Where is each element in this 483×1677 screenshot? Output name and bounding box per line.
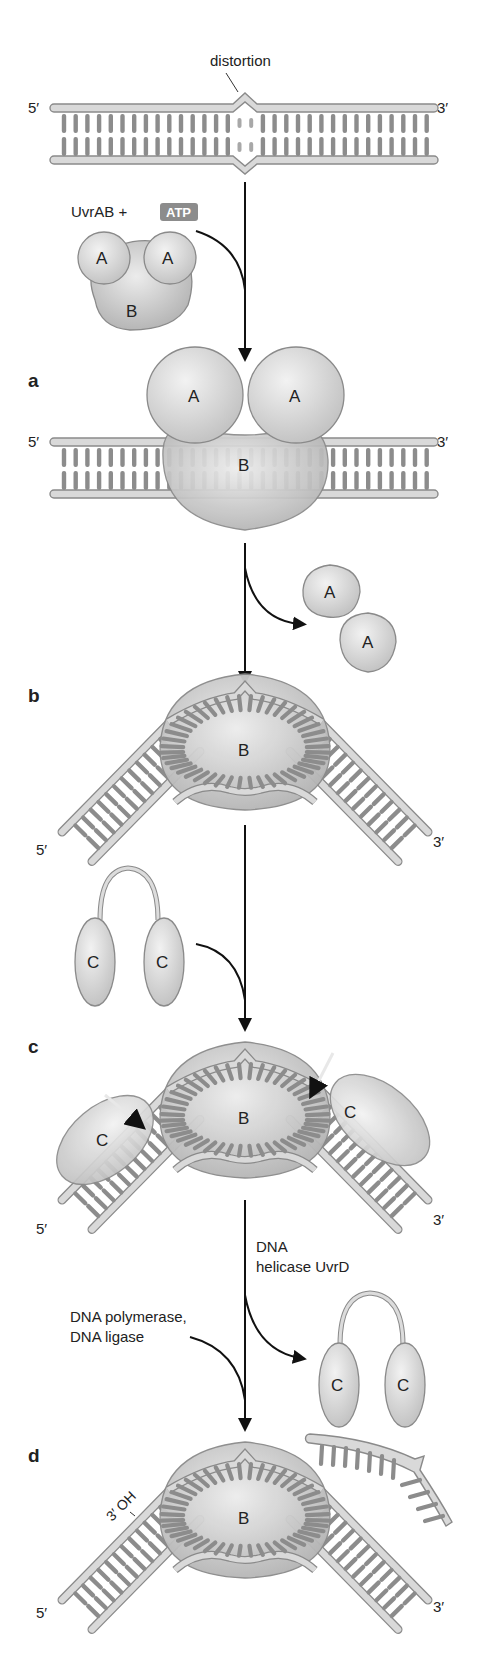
uvrab-complex: A A B (78, 232, 196, 330)
panel-d-end-3: 3′ (433, 1598, 444, 1615)
base-pairs (62, 114, 429, 156)
polymerase-label-2: DNA ligase (70, 1328, 144, 1345)
protein-B-label: B (238, 1109, 249, 1128)
uvrC-linker (100, 868, 158, 920)
released-A-1-label: A (324, 583, 336, 602)
join-arrow-polymerase (190, 1337, 245, 1400)
label-A-2: A (162, 249, 174, 268)
panel-d-end-5: 5′ (36, 1604, 47, 1621)
release-arrow-C (245, 1295, 300, 1358)
helicase-label-2: helicase UvrD (256, 1258, 350, 1275)
release-arrow-A (245, 568, 300, 624)
oh-3-label: 3′ OH (103, 1488, 139, 1524)
protein-B-label: B (238, 1509, 249, 1528)
uvrC-1-label: C (87, 953, 99, 972)
distortion-pointer (226, 73, 238, 92)
label-B: B (126, 302, 137, 321)
top-strand (50, 93, 438, 112)
polymerase-label-1: DNA polymerase, (70, 1308, 187, 1325)
released-uvrC-2-label: C (397, 1376, 409, 1395)
panel-c-end-5: 5′ (36, 1220, 47, 1237)
panel-c-C-right-label: C (344, 1103, 356, 1122)
panel-a-label-A-1: A (188, 387, 200, 406)
uvrC-2-label: C (156, 953, 168, 972)
panel-a-end-3: 3′ (437, 433, 448, 450)
dna-duplex-with-distortion: distortion 5′ 3′ (28, 52, 448, 174)
label-A-1: A (96, 249, 108, 268)
join-arrow-1 (196, 231, 245, 290)
top-end-5: 5′ (28, 99, 39, 116)
panel-a-label-A-2: A (289, 387, 301, 406)
panel-d: d5′3′3′ OHB (28, 1434, 452, 1629)
top-end-3: 3′ (437, 99, 448, 116)
released-uvrC-1-label: C (331, 1376, 343, 1395)
released-A-proteins: A A (303, 565, 396, 672)
uvrab-label: UvrAB + (71, 203, 128, 220)
panel-a-end-5: 5′ (28, 433, 39, 450)
distortion-label: distortion (210, 52, 271, 69)
panel-a: a 5′ 3′ A A B (28, 347, 448, 530)
panel-c: c5′3′BCC (28, 1036, 446, 1237)
atp-label: ATP (166, 205, 191, 220)
ner-diagram: distortion 5′ 3′ UvrAB + ATP A A B a 5′ … (0, 0, 483, 1677)
panel-b: b5′3′B (28, 674, 444, 861)
panel-c-C-left-label: C (96, 1131, 108, 1150)
panel-a-label: a (28, 370, 39, 391)
panel-b-end-5: 5′ (36, 841, 47, 858)
panel-b-end-3: 3′ (433, 833, 444, 850)
protein-B-label: B (238, 741, 249, 760)
join-arrow-C (196, 944, 245, 1000)
panel-d-label: d (28, 1445, 40, 1466)
panel-b-label: b (28, 685, 40, 706)
helicase-label-1: DNA (256, 1238, 288, 1255)
panel-a-label-B: B (238, 456, 249, 475)
released-A-2-label: A (362, 633, 374, 652)
bottom-strand (50, 156, 438, 174)
panel-c-label: c (28, 1036, 39, 1057)
incoming-uvrC: C C (75, 868, 184, 1006)
released-uvrC: C C (319, 1293, 425, 1427)
panel-c-end-3: 3′ (433, 1211, 444, 1228)
